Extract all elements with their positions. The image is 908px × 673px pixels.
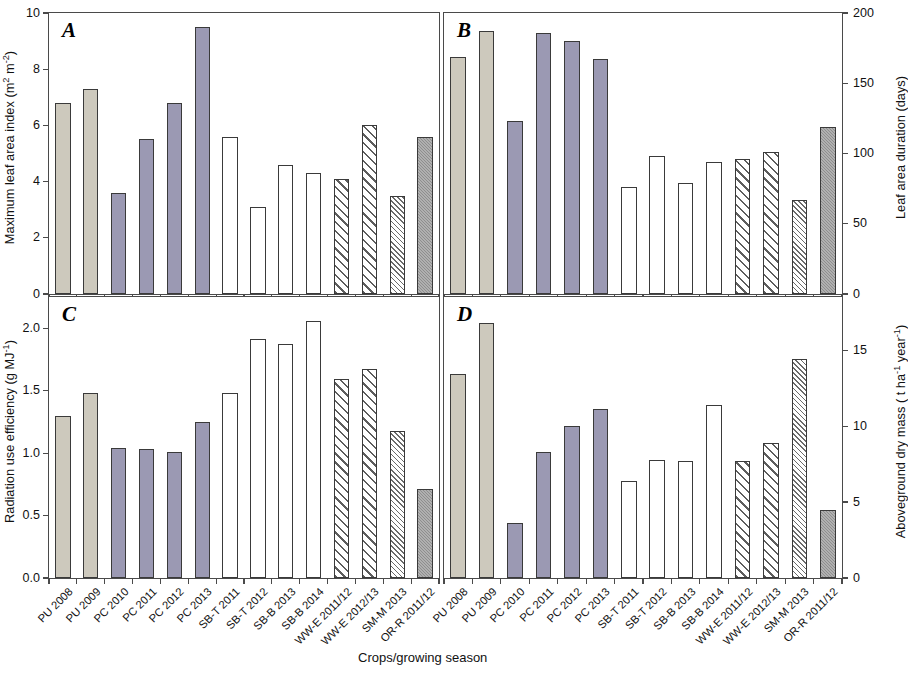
y-tick-c-1 (43, 515, 49, 516)
y-tick-b-3 (842, 83, 848, 84)
bar-d-1 (479, 323, 494, 578)
bar-b-10 (735, 159, 750, 294)
y-tick-label-c-3: 1.5 (8, 384, 40, 397)
bar-b-5 (593, 59, 608, 294)
y-tick-label-c-0: 0.0 (8, 572, 40, 585)
x-tick-d-6 (614, 578, 615, 584)
y-tick-d-0 (842, 577, 848, 578)
y-tick-b-4 (842, 12, 848, 13)
bar-a-1 (83, 89, 98, 294)
x-tick-c-8 (271, 578, 272, 584)
bar-c-3 (139, 449, 154, 578)
bar-a-7 (250, 207, 265, 294)
x-tick-d-8 (671, 578, 672, 584)
y-tick-label-d-3: 15 (853, 344, 887, 357)
x-tick-d-7 (642, 578, 643, 584)
y-tick-d-1 (842, 501, 848, 502)
panel-d-plot-area (444, 297, 842, 578)
panel-d-y-axis-title: Aboveground dry mass ( t ha-1 year-1) (895, 290, 908, 573)
bar-b-11 (763, 152, 778, 294)
y-tick-label-a-1: 2 (8, 231, 40, 244)
panel-b (443, 12, 843, 295)
panel-c-label: C (62, 302, 76, 327)
panel-d (443, 296, 843, 579)
y-tick-d-3 (842, 350, 848, 351)
y-tick-a-4 (43, 69, 49, 70)
x-tick-d-3 (529, 578, 530, 584)
bar-d-13 (820, 510, 835, 578)
bar-c-12 (390, 431, 405, 578)
panel-b-label: B (457, 18, 471, 43)
x-tick-c-14 (438, 578, 439, 584)
bar-c-10 (334, 379, 349, 578)
panel-b-plot-area (444, 13, 842, 294)
bar-b-9 (706, 162, 721, 294)
y-tick-label-a-2: 4 (8, 175, 40, 188)
bar-c-9 (306, 321, 321, 578)
bar-d-9 (706, 405, 721, 578)
panel-a (48, 12, 440, 295)
y-tick-label-b-0: 0 (853, 288, 887, 301)
bar-b-3 (536, 33, 551, 294)
bar-c-11 (362, 369, 377, 578)
y-tick-label-b-1: 50 (853, 217, 887, 230)
panel-a-y-axis-title: Maximum leaf area index (m2 m-2) (4, 6, 17, 289)
bar-c-2 (111, 448, 126, 578)
bar-d-12 (792, 359, 807, 578)
y-tick-a-5 (43, 12, 49, 13)
y-tick-label-b-2: 100 (853, 147, 887, 160)
x-tick-c-11 (355, 578, 356, 584)
y-tick-label-c-4: 2.0 (8, 322, 40, 335)
bar-c-4 (167, 452, 182, 578)
bar-b-0 (450, 57, 465, 294)
bar-a-10 (334, 179, 349, 294)
bar-b-7 (649, 156, 664, 294)
y-tick-label-a-4: 8 (8, 63, 40, 76)
bar-a-11 (362, 125, 377, 294)
y-tick-c-2 (43, 453, 49, 454)
x-tick-c-4 (160, 578, 161, 584)
bar-b-2 (507, 121, 522, 294)
x-tick-c-3 (132, 578, 133, 584)
bar-a-2 (111, 193, 126, 294)
x-tick-d-0 (443, 578, 444, 584)
x-tick-c-6 (216, 578, 217, 584)
x-tick-d-14 (841, 578, 842, 584)
bar-c-0 (55, 416, 70, 578)
y-tick-d-2 (842, 426, 848, 427)
x-tick-d-5 (586, 578, 587, 584)
y-tick-b-2 (842, 153, 848, 154)
bar-c-13 (417, 489, 432, 578)
y-tick-label-a-5: 10 (8, 7, 40, 20)
x-tick-d-11 (756, 578, 757, 584)
y-tick-label-a-3: 6 (8, 119, 40, 132)
y-tick-label-d-0: 0 (853, 572, 887, 585)
x-tick-d-9 (699, 578, 700, 584)
bar-d-3 (536, 452, 551, 578)
bar-a-12 (390, 196, 405, 294)
bar-d-0 (450, 374, 465, 578)
bar-b-6 (621, 187, 636, 294)
bar-d-5 (593, 409, 608, 578)
x-tick-c-1 (76, 578, 77, 584)
y-tick-label-c-2: 1.0 (8, 447, 40, 460)
bar-b-13 (820, 127, 835, 294)
x-tick-c-7 (243, 578, 244, 584)
x-tick-c-12 (383, 578, 384, 584)
bar-c-7 (250, 339, 265, 578)
x-tick-c-9 (299, 578, 300, 584)
bar-a-0 (55, 103, 70, 294)
panel-c-plot-area (49, 297, 439, 578)
bar-b-12 (792, 200, 807, 294)
x-tick-c-13 (411, 578, 412, 584)
panel-a-label: A (62, 18, 76, 43)
x-tick-c-0 (48, 578, 49, 584)
x-tick-c-5 (188, 578, 189, 584)
x-tick-d-10 (728, 578, 729, 584)
x-tick-d-12 (785, 578, 786, 584)
bar-a-13 (417, 137, 432, 294)
bar-c-6 (222, 393, 237, 578)
bar-d-4 (564, 426, 579, 578)
bar-d-11 (763, 443, 778, 578)
